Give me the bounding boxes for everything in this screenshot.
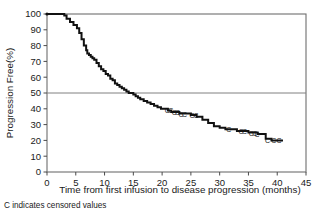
y-axis-tick-label: 60 (30, 72, 41, 83)
y-axis-tick-label: 80 (30, 40, 41, 51)
x-axis-tick-label: 0 (44, 177, 49, 188)
y-axis-tick-label: 100 (25, 8, 41, 19)
x-axis-title: Time from first infusion to disease prog… (59, 184, 300, 195)
censor-mark: C (242, 128, 247, 135)
x-axis-tick-label: 45 (301, 177, 312, 188)
y-axis-tick-label: 30 (30, 119, 41, 130)
censor-mark: C (276, 137, 281, 144)
y-axis-tick-label: 40 (30, 103, 41, 114)
y-axis-tick-label: 50 (30, 87, 41, 98)
curve-start-marker (45, 12, 48, 15)
y-axis-tick-label: 10 (30, 151, 41, 162)
y-axis-title: Progression Free(%) (4, 48, 15, 138)
censor-mark: C (265, 137, 270, 144)
y-axis-tick-label: 0 (36, 166, 41, 177)
figure-caption: C indicates censored values (4, 201, 106, 210)
y-axis-tick-label: 70 (30, 56, 41, 67)
censor-mark: C (226, 126, 231, 133)
progression-free-survival-chart: 051015202530354045 010203040506070809010… (0, 0, 326, 216)
censor-mark: C (194, 112, 199, 119)
kaplan-meier-figure: 051015202530354045 010203040506070809010… (0, 0, 326, 216)
y-axis-tick-label: 20 (30, 135, 41, 146)
censor-mark: C (182, 111, 187, 118)
y-axis-tick-label: 90 (30, 24, 41, 35)
censor-mark: C (255, 131, 260, 138)
